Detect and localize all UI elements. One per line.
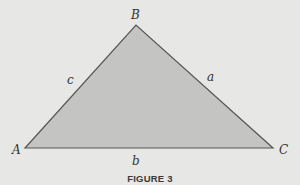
triangle-abc: [25, 25, 273, 148]
side-label-a: a: [207, 70, 214, 84]
vertex-label-a: A: [11, 143, 21, 157]
vertex-label-b: B: [130, 8, 140, 22]
side-label-c: c: [67, 73, 74, 87]
figure-caption: FIGURE 3: [127, 173, 172, 184]
triangle-diagram: A B C c a b FIGURE 3: [0, 0, 300, 185]
vertex-label-c: C: [279, 143, 288, 157]
side-label-b: b: [132, 154, 140, 168]
